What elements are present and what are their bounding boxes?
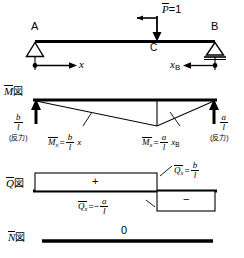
axial-title-suffix: 図 <box>15 232 25 243</box>
axial-diagram-title: N図 <box>8 231 25 243</box>
reaction-label-left: b l (反力) <box>9 113 28 141</box>
support-b-roller <box>204 43 226 60</box>
moment-leader-left <box>83 112 92 126</box>
reaction-left-note: (反力) <box>9 134 28 141</box>
label-support-b: B <box>211 21 218 32</box>
unit-load-label: P=1 <box>162 3 181 15</box>
unit-load-arrow-shaft <box>153 16 162 42</box>
moment-formula-left-fraction: b l <box>66 133 75 153</box>
unit-load-symbol: P <box>162 3 169 15</box>
moment-leader-right <box>170 112 180 126</box>
shear-formula-positive: Qx= b l <box>174 161 199 181</box>
moment-triangle <box>36 101 214 126</box>
shear-formula-negative-lhs: Qx <box>78 201 87 212</box>
shear-symbol: Q <box>6 177 14 189</box>
shear-formula-negative: Qx=− a l <box>78 197 108 217</box>
figure-vector-layer <box>0 0 244 258</box>
label-support-a: A <box>31 21 38 32</box>
figure-canvas: A B C P=1 x xB M図 b l (反力) a l (反力) Mx= … <box>0 0 244 258</box>
moment-formula-right: Mx= a l xB <box>142 133 179 153</box>
moment-formula-right-fraction: a l <box>160 133 169 153</box>
moment-formula-right-lhs: Mx <box>142 137 152 148</box>
reaction-right-fraction: a l <box>220 113 229 133</box>
label-point-c: C <box>150 43 157 53</box>
moment-formula-left-tail: x <box>77 138 81 147</box>
shear-formula-positive-lhs: Qx <box>174 165 183 176</box>
shear-formula-positive-fraction: b l <box>191 161 200 181</box>
support-a-pin <box>27 43 44 57</box>
dimension-label-xb: xB <box>170 59 180 72</box>
shear-title-suffix: 図 <box>14 178 24 189</box>
moment-formula-left: Mx= b l x <box>48 133 81 153</box>
shear-diagram-title: Q図 <box>6 177 24 189</box>
reaction-right-note: (反力) <box>210 134 229 141</box>
moment-diagram-title: M図 <box>4 85 23 97</box>
shear-leader-negative <box>146 200 155 207</box>
shear-negative-sign: − <box>183 194 189 205</box>
reaction-left-fraction: b l <box>14 113 23 133</box>
shear-positive-sign: + <box>92 176 98 187</box>
dimension-x-right <box>183 57 217 70</box>
reaction-arrow-left <box>31 99 41 124</box>
unit-load-value: =1 <box>169 3 182 15</box>
shear-leader-positive <box>160 166 172 176</box>
dimension-x-left <box>33 56 77 70</box>
moment-formula-left-lhs: Mx <box>48 137 58 148</box>
axial-value-label: 0 <box>121 225 127 236</box>
moment-title-suffix: 図 <box>13 86 23 97</box>
moment-formula-right-tail: xB <box>171 138 179 148</box>
moment-symbol: M <box>4 85 13 97</box>
reaction-label-right: a l (反力) <box>219 113 229 141</box>
shear-formula-negative-fraction: a l <box>100 197 109 217</box>
dimension-label-x: x <box>79 59 84 70</box>
